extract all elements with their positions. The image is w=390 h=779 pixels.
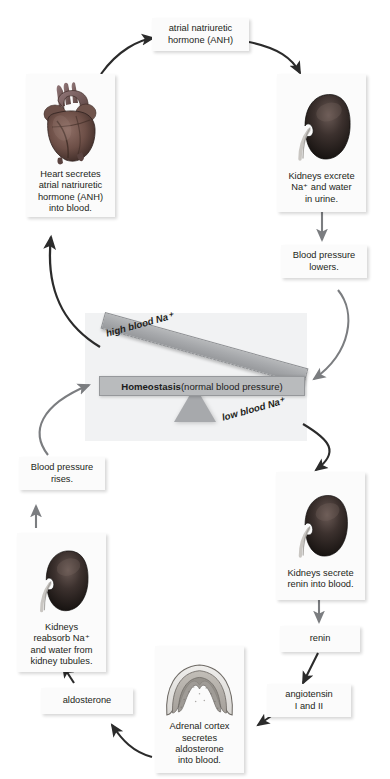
node-aldosterone[interactable]: aldosterone <box>41 688 133 714</box>
kidney-organ-image <box>290 487 352 565</box>
kidney-organ-image <box>31 543 93 619</box>
node-kidney-renin-label: Kidneys secrete renin into blood. <box>285 568 355 591</box>
arrow-bp-lowers-to-homeostasis <box>314 290 348 379</box>
node-anh-hormone[interactable]: atrial natriuretic hormone (ANH) <box>152 18 249 51</box>
homeostasis-label-bar: Homeostasis (normal blood pressure) <box>99 376 305 396</box>
node-bp-lowers-label: Blood pressure lowers. <box>291 250 358 273</box>
arrow-adrenal-to-aldosterone <box>112 725 152 757</box>
node-renin-label: renin <box>308 633 333 645</box>
node-bp-rises-label: Blood pressure rises. <box>29 462 96 485</box>
homeostasis-diagram: atrial natriuretic hormone (ANH) <box>0 0 390 779</box>
node-kidney-excrete[interactable]: Kidneys excrete Na⁺ and water in urine. <box>277 74 366 212</box>
node-adrenal-cortex-label: Adrenal cortex secretes aldosterone into… <box>168 721 232 767</box>
arrow-heart-to-anh <box>101 38 153 74</box>
node-kidney-renin[interactable]: Kidneys secrete renin into blood. <box>276 472 365 600</box>
node-kidney-reabsorb-label: Kidneys reabsorb Na⁺ and water from kidn… <box>28 622 94 668</box>
heart-organ-image <box>38 81 104 167</box>
node-bp-rises[interactable]: Blood pressure rises. <box>19 457 105 490</box>
node-bp-lowers[interactable]: Blood pressure lowers. <box>281 245 367 278</box>
homeostasis-rest-text: (normal blood pressure) <box>181 381 283 392</box>
node-kidney-excrete-label: Kidneys excrete Na⁺ and water in urine. <box>286 171 356 205</box>
node-anh-hormone-label: atrial natriuretic hormone (ANH) <box>166 23 235 46</box>
arrow-bp-rises-to-homeostasis <box>40 385 89 455</box>
arrow-anh-to-kidney-excrete <box>249 42 300 73</box>
adrenal-cortex-image <box>163 657 236 719</box>
node-renin[interactable]: renin <box>280 626 360 652</box>
node-heart-label: Heart secretes atrial natriuretic hormon… <box>36 169 105 215</box>
node-aldosterone-label: aldosterone <box>61 695 114 707</box>
arrow-renin-to-angiotensin <box>303 653 318 683</box>
node-angiotensin[interactable]: angiotensin I and II <box>267 684 351 717</box>
node-angiotensin-label: angiotensin I and II <box>283 689 335 712</box>
homeostasis-bold-text: Homeostasis <box>121 381 181 392</box>
kidney-organ-image <box>289 86 355 168</box>
node-adrenal-cortex[interactable]: Adrenal cortex secretes aldosterone into… <box>155 646 244 773</box>
node-kidney-reabsorb[interactable]: Kidneys reabsorb Na⁺ and water from kidn… <box>17 533 106 672</box>
node-heart[interactable]: Heart secretes atrial natriuretic hormon… <box>26 74 115 217</box>
